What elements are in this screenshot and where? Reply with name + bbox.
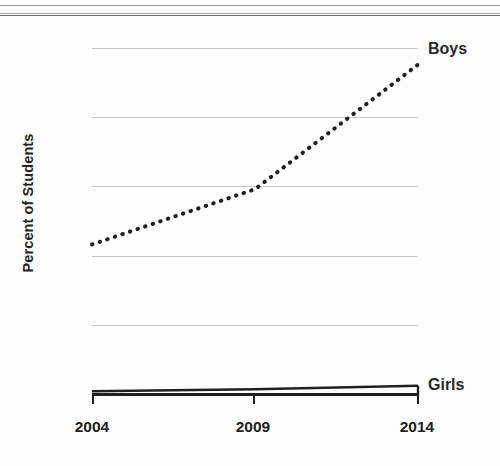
x-tick-2014: [417, 393, 419, 404]
series-label-girls: Girls: [428, 376, 464, 394]
y-axis-title: Percent of Students: [20, 103, 36, 303]
scan-artifact-rule-top: [0, 5, 500, 6]
plot-area: 25 20 15 10 5 0: [92, 48, 418, 394]
gridline-15: [92, 186, 418, 187]
x-tick-label-2004: 2004: [47, 418, 137, 436]
scan-artifact-rule-bottom: [0, 15, 500, 16]
gridline-10: [92, 256, 418, 257]
scan-artifact-rule-middle: [0, 13, 500, 14]
gridline-5: [92, 325, 418, 326]
x-axis-line: [92, 393, 418, 396]
x-tick-label-2014: 2014: [372, 418, 462, 436]
gridline-25: [92, 48, 418, 49]
x-tick-2009: [253, 393, 255, 404]
chart-page: Percent of Students 25 20 15 10 5 0 2004…: [0, 0, 500, 466]
series-label-boys: Boys: [428, 40, 467, 58]
gridline-20: [92, 117, 418, 118]
x-tick-2004: [92, 393, 94, 404]
x-tick-label-2009: 2009: [208, 418, 298, 436]
